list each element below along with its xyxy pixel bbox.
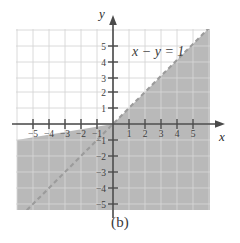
x-axis-label: x: [218, 129, 225, 144]
x-tick-label: 2: [143, 129, 148, 139]
x-axis-arrowhead: [215, 120, 225, 128]
y-axis-label: y: [97, 6, 105, 21]
equation-annotation: x − y = 1: [131, 44, 184, 59]
figure-caption: (b): [0, 214, 240, 231]
x-tick-label: 1: [127, 129, 132, 139]
inequality-graph-figure: −5 −4 −3 −2 −1 1 2 3 4 5 5 4 3 2 1 −1 −2…: [0, 0, 240, 243]
y-tick-label: 5: [101, 42, 106, 52]
y-tick-label: 4: [101, 58, 106, 68]
y-tick-label: 3: [101, 74, 106, 84]
y-tick-label: −3: [96, 168, 106, 178]
y-axis-arrowhead: [109, 15, 117, 25]
x-tick-label: 5: [191, 129, 196, 139]
x-tick-label: 3: [159, 129, 164, 139]
x-tick-label: −2: [76, 129, 86, 139]
x-tick-label: −4: [44, 129, 54, 139]
y-tick-label: −5: [96, 200, 106, 210]
y-tick-label: −1: [96, 136, 106, 146]
y-tick-label: −4: [96, 184, 106, 194]
y-tick-label: −2: [96, 152, 106, 162]
x-tick-label: 4: [175, 129, 180, 139]
y-tick-label: 1: [101, 104, 106, 114]
x-tick-label: −5: [28, 129, 38, 139]
y-tick-label: 2: [101, 88, 106, 98]
x-tick-label: −3: [60, 129, 70, 139]
